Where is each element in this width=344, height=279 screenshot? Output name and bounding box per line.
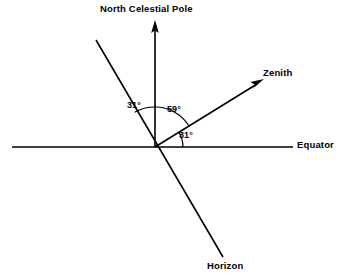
horizon-label: Horizon [207, 261, 243, 271]
zenith-label: Zenith [263, 68, 292, 78]
angle-label-ncp-horizon: 31° [127, 101, 141, 110]
equator-label: Equator [297, 140, 334, 150]
north-celestial-pole-label: North Celestial Pole [100, 4, 193, 14]
horizon-line [96, 40, 223, 257]
diagram-canvas [0, 0, 344, 279]
zenith-line [155, 84, 257, 147]
zenith-arrowhead [251, 79, 265, 90]
celestial-angle-diagram: North Celestial Pole Zenith Equator Hori… [0, 0, 344, 279]
angle-label-ncp-zenith: 59° [167, 105, 181, 114]
angle-label-zenith-equator: 31° [179, 131, 193, 140]
